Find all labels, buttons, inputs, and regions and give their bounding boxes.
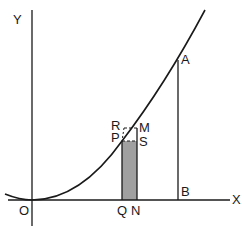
point-p-label: P bbox=[111, 131, 120, 144]
point-s-label: S bbox=[139, 135, 148, 148]
point-a-label: A bbox=[181, 53, 190, 66]
origin-label: O bbox=[19, 204, 29, 217]
point-q-label: Q bbox=[117, 204, 127, 217]
x-axis-label: X bbox=[232, 193, 241, 206]
point-b-label: B bbox=[181, 185, 190, 198]
shaded-strip bbox=[122, 141, 137, 200]
point-m-label: M bbox=[139, 121, 150, 134]
y-axis-label: Y bbox=[13, 13, 22, 26]
point-n-label: N bbox=[131, 204, 140, 217]
curve bbox=[5, 10, 205, 200]
